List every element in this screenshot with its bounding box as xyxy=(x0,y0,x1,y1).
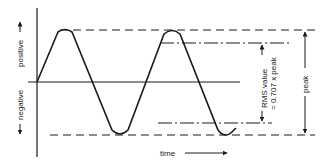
positive-label: positive xyxy=(16,39,25,67)
negative-label: negative xyxy=(16,89,25,120)
sine-wave-diagram: positive negative time RMS value = 0.707… xyxy=(0,0,325,165)
time-label: time xyxy=(160,149,176,158)
peak-label: peak xyxy=(301,75,310,93)
rms-label-line2: = 0.707 x peak xyxy=(269,56,278,110)
rms-label-line1: RMS value xyxy=(260,68,269,108)
